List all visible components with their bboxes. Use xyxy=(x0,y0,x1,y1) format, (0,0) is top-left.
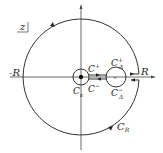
arrow-C-R-top-icon xyxy=(50,22,55,27)
imag-axis-arrow-icon xyxy=(80,5,83,9)
label-C-minus: C− xyxy=(88,82,100,94)
label-C-R: CR xyxy=(117,121,130,133)
real-axis-arrow-icon xyxy=(151,76,155,79)
label-C-delta-minus: C−Δ xyxy=(111,86,123,100)
arrow-C-minus-icon xyxy=(97,77,101,80)
label-neg-R: -R xyxy=(9,67,20,78)
label-C-epsilon: Cε xyxy=(73,86,83,98)
label-pos-R: R xyxy=(140,66,149,77)
arrow-lower-right-icon xyxy=(131,78,135,81)
arrow-C-plus-icon xyxy=(96,73,100,76)
contour-diagram: × z -R R C+ C− Cε C+Δ C−Δ CR xyxy=(0,0,163,153)
plane-label: z xyxy=(19,21,26,32)
label-C-plus: C+ xyxy=(88,62,100,74)
arrow-upper-right-icon xyxy=(130,72,134,75)
label-C-delta-plus: C+Δ xyxy=(111,56,123,70)
pole-x-icon: × xyxy=(113,74,117,82)
origin-dot xyxy=(79,75,83,79)
